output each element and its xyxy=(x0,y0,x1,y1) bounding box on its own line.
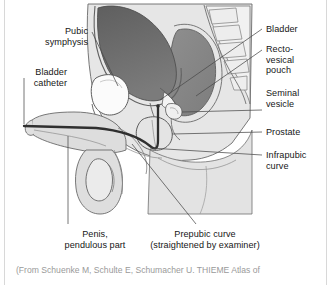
vertebra-segment-1 xyxy=(209,8,238,24)
seminal-vesicle xyxy=(166,103,182,119)
figure-caption: (From Schuenke M, Schulte E, Schumacher … xyxy=(16,265,326,276)
label-prepubic-curve: Prepubic curve (straightened by examiner… xyxy=(135,229,275,250)
label-bladder: Bladder xyxy=(266,24,330,35)
label-rectovesical-pouch: Recto- vesical pouch xyxy=(266,44,328,76)
label-pubic-symphysis: Pubic symphysis xyxy=(16,26,88,47)
prostate-gland xyxy=(136,117,172,151)
pubic-symphysis-bone xyxy=(91,75,129,115)
anatomy-figure: Pubic symphysis Bladder catheter Bladder… xyxy=(0,0,331,285)
label-bladder-catheter: Bladder catheter xyxy=(7,67,67,88)
label-seminal-vesicle: Seminal vesicle xyxy=(266,88,328,109)
vertebra-segment-2 xyxy=(213,25,242,41)
label-infrapubic-curve: Infrapubic curve xyxy=(266,150,328,171)
catheter-tip xyxy=(156,104,160,108)
label-penis-pendulous-part: Penis, pendulous part xyxy=(45,229,145,250)
label-prostate: Prostate xyxy=(266,127,328,138)
prostate-group xyxy=(136,117,172,151)
seminal-vesicle-group xyxy=(166,103,182,119)
